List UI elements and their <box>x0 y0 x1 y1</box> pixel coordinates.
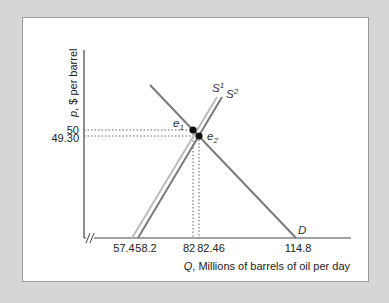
e2-label: e2 <box>207 130 218 145</box>
y-tick-49-30: 49.30 <box>51 132 79 144</box>
d-label: D <box>298 224 306 236</box>
x-tick-82-46: 82.46 <box>197 242 225 254</box>
supply-demand-chart: S1 S2 D e1 e2 50 49.30 57.4 58.2 82 82.4… <box>0 0 389 303</box>
s2-label: S2 <box>226 87 239 100</box>
y-axis-label: p, $ per barrel <box>67 49 79 119</box>
x-tick-114-8: 114.8 <box>285 242 312 254</box>
demand-curve <box>150 85 296 238</box>
x-tick-58-2: 58.2 <box>135 242 156 254</box>
s1-label: S1 <box>212 81 224 94</box>
axis-break-icon <box>86 232 94 244</box>
x-tick-57-4: 57.4 <box>113 242 134 254</box>
supply-curve-s2 <box>138 97 222 238</box>
equilibrium-e1 <box>189 126 196 133</box>
equilibrium-e2 <box>195 132 202 139</box>
x-tick-82: 82 <box>183 242 195 254</box>
x-axis-label: Q, Millions of barrels of oil per day <box>184 260 351 272</box>
